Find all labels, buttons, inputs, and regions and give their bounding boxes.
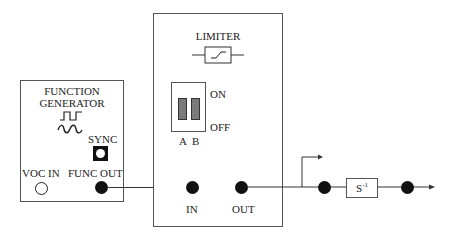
integrator-exponent: -1 [362,181,368,189]
integrator-block: S-1 [346,178,378,198]
output-arrow-icon [428,185,435,189]
final-output-jack[interactable] [401,181,414,194]
branch-arrow-icon [302,155,322,159]
output-chain-wiring [0,0,449,242]
output-node-jack[interactable] [318,181,331,194]
